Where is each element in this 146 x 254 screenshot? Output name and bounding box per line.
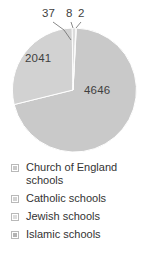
pie-label-jewish: 37 xyxy=(42,7,55,19)
legend-label-islamic: Islamic schools xyxy=(26,228,101,241)
pie-label-catholic: 2041 xyxy=(25,52,51,64)
legend-label-jewish: Jewish schools xyxy=(26,210,100,223)
pie-label-islamic: 8 xyxy=(66,7,72,19)
pie-label-church-of-england: 4646 xyxy=(84,84,110,96)
leader-line-2 xyxy=(76,22,81,28)
legend-label-catholic: Catholic schools xyxy=(26,192,106,205)
chart-legend: Church of England schools Catholic schoo… xyxy=(0,161,146,246)
leader-line-8 xyxy=(71,22,73,28)
pie-chart: 4646 2041 37 8 2 xyxy=(0,0,146,160)
pie-chart-svg xyxy=(0,0,146,160)
legend-swatch-islamic xyxy=(11,231,19,239)
pie-label-extra: 2 xyxy=(78,7,84,19)
legend-swatch-church-of-england xyxy=(11,164,19,172)
legend-item-catholic: Catholic schools xyxy=(0,192,146,205)
legend-swatch-jewish xyxy=(11,213,19,221)
legend-item-islamic: Islamic schools xyxy=(0,228,146,241)
legend-swatch-catholic xyxy=(11,195,19,203)
legend-label-church-of-england: Church of England schools xyxy=(26,161,134,187)
legend-item-church-of-england: Church of England schools xyxy=(0,161,146,187)
legend-item-jewish: Jewish schools xyxy=(0,210,146,223)
